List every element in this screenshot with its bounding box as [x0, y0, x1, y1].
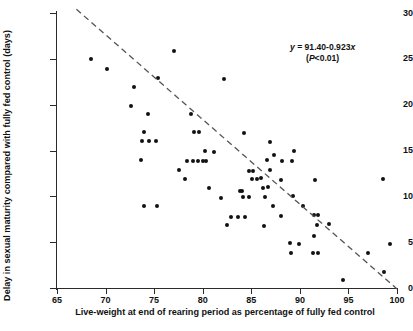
- x-tick-label-65: 65: [42, 296, 72, 305]
- y-tick-15: [50, 151, 56, 152]
- data-point: [222, 77, 226, 81]
- data-point: [366, 251, 370, 255]
- x-tick-label-95: 95: [333, 296, 363, 305]
- y-tick-5: [50, 242, 56, 243]
- data-point: [247, 195, 251, 199]
- data-point: [207, 186, 211, 190]
- y-tick-10: [50, 196, 56, 197]
- data-point: [261, 186, 265, 190]
- x-axis-line: [56, 288, 398, 289]
- y-tick-25: [50, 59, 56, 60]
- data-point: [268, 168, 272, 172]
- regression-equation-annotation: y = 91.40-0.923x (P<0.01): [290, 42, 355, 65]
- data-point: [301, 204, 305, 208]
- data-point: [155, 204, 159, 208]
- data-point: [316, 251, 320, 255]
- data-point: [241, 195, 245, 199]
- data-point: [279, 178, 283, 182]
- data-point: [212, 150, 216, 154]
- data-point: [316, 213, 320, 217]
- data-point: [203, 149, 207, 153]
- data-point: [266, 185, 270, 189]
- data-point: [290, 159, 294, 163]
- data-point: [381, 177, 385, 181]
- x-tick-90: [300, 289, 301, 294]
- data-point: [192, 130, 196, 134]
- data-point: [146, 112, 150, 116]
- data-point: [341, 278, 345, 282]
- data-point: [289, 251, 293, 255]
- x-tick-80: [203, 289, 204, 294]
- data-point: [262, 224, 266, 228]
- x-tick-85: [251, 289, 252, 294]
- data-point: [132, 85, 136, 89]
- data-point: [251, 169, 255, 173]
- data-point: [259, 176, 263, 180]
- data-point: [388, 242, 392, 246]
- data-point: [219, 196, 223, 200]
- data-point: [177, 168, 181, 172]
- data-point: [272, 153, 276, 157]
- data-point: [154, 139, 158, 143]
- data-point: [250, 177, 254, 181]
- data-point: [263, 195, 267, 199]
- data-point: [292, 149, 296, 153]
- data-point: [147, 139, 151, 143]
- data-point: [265, 158, 269, 162]
- x-tick-95: [348, 289, 349, 294]
- data-point: [288, 241, 292, 245]
- regression-equation-line2: (P<0.01): [290, 53, 355, 64]
- data-point: [271, 204, 275, 208]
- data-point: [197, 130, 201, 134]
- x-tick-100: [397, 289, 398, 294]
- data-point: [243, 215, 247, 219]
- data-point: [312, 234, 316, 238]
- x-tick-65: [57, 289, 58, 294]
- data-point: [242, 131, 246, 135]
- data-point: [156, 76, 160, 80]
- data-point: [189, 112, 193, 116]
- data-point: [89, 57, 93, 61]
- x-tick-label-85: 85: [236, 296, 266, 305]
- data-point: [142, 130, 146, 134]
- y-tick-0: [50, 288, 56, 289]
- x-tick-75: [154, 289, 155, 294]
- data-point: [280, 159, 284, 163]
- data-point: [311, 251, 315, 255]
- x-axis-title: Live-weight at end of rearing period as …: [45, 308, 405, 317]
- data-point: [268, 140, 272, 144]
- data-point: [315, 223, 319, 227]
- data-point: [139, 158, 143, 162]
- y-tick-30: [50, 13, 56, 14]
- data-point: [225, 223, 229, 227]
- data-point: [185, 159, 189, 163]
- data-point: [236, 215, 240, 219]
- x-tick-label-70: 70: [91, 296, 121, 305]
- regression-equation-line1: y = 91.40-0.923x: [290, 42, 355, 53]
- y-axis-title: Delay in sexual maturity compared with f…: [0, 0, 14, 331]
- data-point: [313, 178, 317, 182]
- x-tick-label-90: 90: [285, 296, 315, 305]
- data-point: [279, 214, 283, 218]
- x-tick-label-80: 80: [188, 296, 218, 305]
- data-point: [172, 49, 176, 53]
- data-point: [291, 194, 295, 198]
- data-point: [240, 189, 244, 193]
- x-tick-label-75: 75: [139, 296, 169, 305]
- scatter-plot-figure: 051015202530 65707580859095100 Delay in …: [0, 0, 413, 331]
- x-tick-label-100: 100: [382, 296, 412, 305]
- data-point: [196, 159, 200, 163]
- data-point: [142, 204, 146, 208]
- data-point: [297, 242, 301, 246]
- data-point: [140, 139, 144, 143]
- data-point: [129, 104, 133, 108]
- data-point: [382, 270, 386, 274]
- data-point: [191, 159, 195, 163]
- data-point: [183, 177, 187, 181]
- data-point: [105, 67, 109, 71]
- data-point: [327, 222, 331, 226]
- data-point: [229, 215, 233, 219]
- y-tick-20: [50, 105, 56, 106]
- data-point: [204, 159, 208, 163]
- x-tick-70: [106, 289, 107, 294]
